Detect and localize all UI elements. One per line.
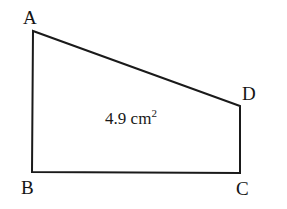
- area-unit: cm: [131, 109, 152, 128]
- area-annotation: 4.9 cm2: [94, 109, 168, 129]
- vertex-label-d: D: [242, 84, 256, 103]
- vertex-label-b: B: [21, 178, 34, 197]
- trapezoid-outline: [32, 31, 240, 173]
- geometry-figure: A B C D 4.9 cm2: [0, 0, 287, 209]
- vertex-label-c: C: [236, 179, 249, 198]
- area-value: 4.9: [105, 109, 126, 128]
- vertex-label-a: A: [23, 8, 37, 27]
- area-exponent: 2: [151, 107, 157, 119]
